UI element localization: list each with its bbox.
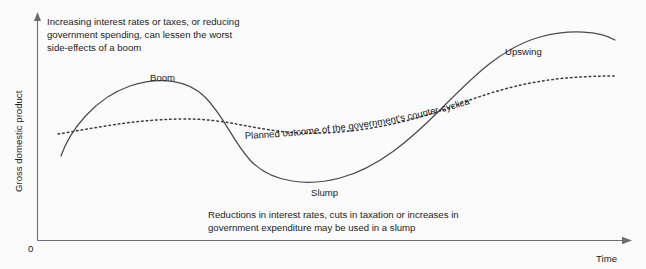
top-annotation-line-1: Increasing interest rates or taxes, or r… xyxy=(47,16,240,27)
x-axis-title: Time xyxy=(596,253,617,264)
origin-label: 0 xyxy=(28,243,33,254)
boom-label: Boom xyxy=(150,72,175,83)
business-cycle-diagram: Gross domestic product Time 0 Increasing… xyxy=(0,0,646,269)
y-axis-title: Gross domestic product xyxy=(13,90,24,192)
y-axis-arrowhead xyxy=(34,12,41,21)
bottom-annotation-line-2: government expenditure may be used in a … xyxy=(208,222,415,233)
bottom-annotation-line-1: Reductions in interest rates, cuts in ta… xyxy=(208,209,459,220)
x-axis-arrowhead xyxy=(622,237,632,244)
bottom-annotation: Reductions in interest rates, cuts in ta… xyxy=(208,209,459,233)
top-annotation-line-3: side-effects of a boom xyxy=(47,42,141,53)
upswing-label: Upswing xyxy=(505,46,542,57)
top-annotation: Increasing interest rates or taxes, or r… xyxy=(47,16,240,53)
slump-label: Slump xyxy=(311,187,338,198)
top-annotation-line-2: government spending, can lessen the wors… xyxy=(47,29,232,40)
